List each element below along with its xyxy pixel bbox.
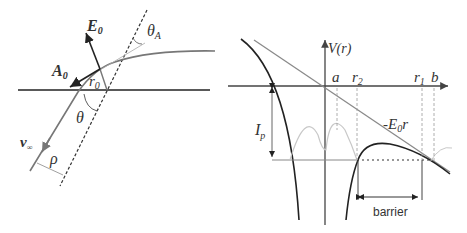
v-inf-label: v∞ [20, 134, 33, 152]
r0-segment [100, 69, 107, 90]
theta-angle-arc [84, 94, 97, 111]
rho-label: ρ [49, 150, 58, 168]
b-label: b [431, 69, 439, 85]
velocity-arrow [42, 138, 50, 152]
r2-label: r2 [352, 69, 363, 87]
thetaA-angle-arc [133, 38, 142, 44]
diagram-canvas: E0 A0 r0 θ θA v∞ ρ [0, 0, 467, 233]
V-axis-label: V(r) [328, 41, 352, 57]
r1-label: r1 [414, 69, 425, 87]
wavefunction-curve [290, 123, 357, 160]
asymptote-dashed-line [60, 10, 147, 186]
Ip-label: Ip [254, 121, 265, 141]
wavefunction-tail [430, 148, 452, 162]
trajectory-diagram: E0 A0 r0 θ θA v∞ ρ [18, 10, 215, 186]
E0-vector-arrow [86, 33, 100, 69]
barrier-label: barrier [373, 205, 408, 219]
coulomb-left-branch [241, 39, 299, 220]
potential-diagram: V(r) a r2 r1 b Ip -E0r barrier [228, 39, 452, 225]
field-label: -E0r [383, 116, 408, 134]
theta-label: θ [76, 109, 84, 126]
thetaA-label: θA [147, 22, 162, 41]
A0-label: A0 [51, 62, 68, 81]
field-line [254, 40, 450, 172]
E0-label: E0 [86, 17, 103, 36]
r0-label: r0 [89, 73, 100, 91]
a-label: a [332, 69, 340, 85]
